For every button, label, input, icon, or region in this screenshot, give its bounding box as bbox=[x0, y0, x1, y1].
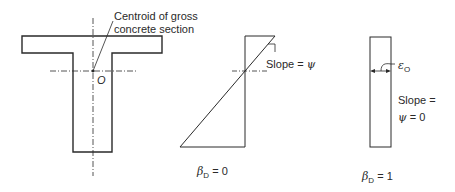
beta-subscript: D bbox=[368, 176, 374, 185]
strain-profile-line bbox=[180, 36, 275, 147]
slope-text: Slope = bbox=[266, 58, 307, 70]
centroid-label-line1: Centroid of gross bbox=[114, 10, 198, 23]
centroid-label-line2: concrete section bbox=[114, 23, 194, 36]
centroid-leader-line bbox=[93, 21, 113, 71]
t-section-outline bbox=[22, 36, 162, 152]
slope-zero-line2: ψ = 0 bbox=[398, 111, 425, 124]
epsilon-subscript: O bbox=[404, 65, 410, 74]
arrowhead-left-icon bbox=[370, 69, 375, 73]
psi-symbol: ψ bbox=[307, 58, 316, 71]
beta-d-zero-label: βD = 0 bbox=[197, 165, 228, 179]
uniform-strain-block bbox=[370, 37, 391, 147]
beta-value: = 1 bbox=[374, 170, 393, 182]
beta-d-one-label: βD = 1 bbox=[362, 170, 393, 184]
arrowhead-right-icon bbox=[386, 69, 391, 73]
psi-symbol: ψ bbox=[398, 111, 407, 124]
beta-subscript: D bbox=[203, 171, 209, 180]
beta-value: = 0 bbox=[209, 165, 228, 177]
slope-angle-marker bbox=[268, 44, 275, 52]
strain-epsilon-label: εO bbox=[398, 59, 410, 73]
slope-zero-line1: Slope = bbox=[398, 94, 436, 107]
slope-zero-value: = 0 bbox=[407, 111, 426, 123]
origin-label: O bbox=[97, 74, 106, 87]
slope-psi-label: Slope = ψ bbox=[266, 58, 315, 71]
diagram-canvas bbox=[0, 0, 455, 192]
